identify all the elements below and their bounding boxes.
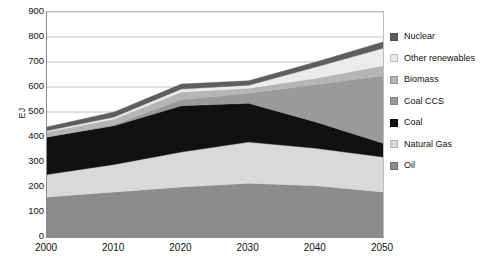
legend-swatch-icon: [390, 76, 398, 84]
plot-area: [46, 11, 384, 238]
y-tick-label: 0: [6, 231, 44, 241]
y-tick-label: 100: [6, 206, 44, 216]
legend-swatch-icon: [390, 162, 398, 170]
legend-swatch-icon: [390, 140, 398, 148]
y-tick-label: 300: [6, 156, 44, 166]
legend-label: Coal: [404, 118, 423, 127]
legend-item-coal[interactable]: Coal: [390, 112, 495, 134]
y-tick-label: 400: [6, 131, 44, 141]
legend-label: Nuclear: [404, 32, 435, 41]
legend-swatch-icon: [390, 97, 398, 105]
legend-swatch-icon: [390, 119, 398, 127]
legend-item-other-renewables[interactable]: Other renewables: [390, 48, 495, 70]
legend-label: Oil: [404, 161, 415, 170]
legend-item-biomass[interactable]: Biomass: [390, 69, 495, 91]
x-tick-label: 2050: [371, 243, 393, 253]
x-tick-label: 2040: [304, 243, 326, 253]
y-tick-label: 900: [6, 6, 44, 16]
x-tick-label: 2000: [35, 243, 57, 253]
y-tick-label: 600: [6, 81, 44, 91]
legend-swatch-icon: [390, 54, 398, 62]
y-tick-label: 800: [6, 31, 44, 41]
legend-label: Coal CCS: [404, 97, 444, 106]
chart-root: EJ 0100200300400500600700800900 20002010…: [0, 0, 497, 266]
x-tick-label: 2010: [102, 243, 124, 253]
legend-label: Biomass: [404, 75, 439, 84]
legend-item-oil[interactable]: Oil: [390, 155, 495, 177]
chart-legend: NuclearOther renewablesBiomassCoal CCSCo…: [390, 26, 495, 201]
y-axis-tick-labels: 0100200300400500600700800900: [0, 0, 44, 249]
x-axis-tick-labels: 200020102020203020402050: [46, 243, 384, 263]
legend-item-nuclear[interactable]: Nuclear: [390, 26, 495, 48]
y-tick-label: 500: [6, 106, 44, 116]
legend-item-coal-ccs[interactable]: Coal CCS: [390, 91, 495, 113]
legend-item-natural-gas[interactable]: Natural Gas: [390, 134, 495, 156]
x-tick-label: 2020: [169, 243, 191, 253]
y-tick-label: 200: [6, 181, 44, 191]
legend-swatch-icon: [390, 33, 398, 41]
legend-label: Natural Gas: [404, 140, 452, 149]
y-tick-label: 700: [6, 56, 44, 66]
stacked-area-series-group: [47, 12, 383, 237]
legend-label: Other renewables: [404, 54, 475, 63]
x-tick-label: 2030: [236, 243, 258, 253]
